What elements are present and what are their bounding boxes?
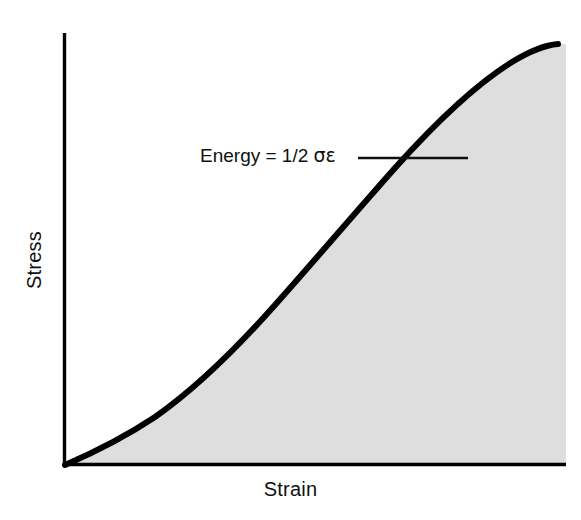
- x-axis-label: Strain: [0, 478, 581, 501]
- y-axis-label: Stress: [0, 240, 104, 280]
- stress-strain-figure: Stress Strain Energy = 1/2 σε: [0, 0, 581, 520]
- energy-annotation-prefix: Energy = 1/2: [200, 145, 314, 166]
- energy-annotation-label: Energy = 1/2 σε: [200, 146, 336, 165]
- energy-annotation-symbols: σε: [314, 144, 336, 166]
